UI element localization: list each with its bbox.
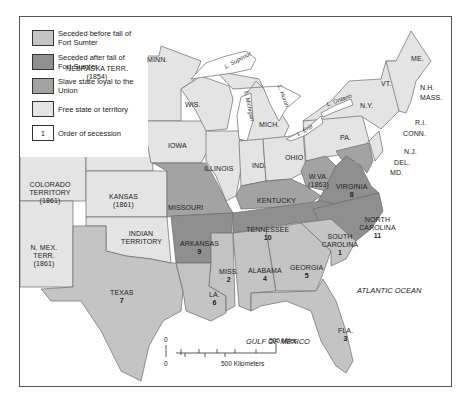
label-conn: CONN. [403,130,426,138]
label-kentucky: KENTUCKY [257,197,296,205]
label-wva: W.VA. (1863) [308,173,329,189]
label-minn: MINN. [147,56,167,64]
label-scarolina: SOUTH CAROLINA 1 [320,233,360,257]
legend-label: Free state or territory [58,105,138,114]
legend-swatch [32,30,54,46]
label-tennessee: TENNESSEE 10 [246,226,289,242]
legend-item-free: Free state or territory [32,101,138,117]
map-frame: Seceded before fall of Fort Sumter Seced… [19,16,452,387]
label-wis: WIS. [185,101,201,109]
label-atlantic-ocean: ATLANTIC OCEAN [357,286,421,295]
label-ind: IND. [252,162,266,170]
label-vt: VT. [381,80,391,88]
label-miss: MISS. 2 [219,268,239,284]
label-ri: R.I. [415,119,426,127]
label-alabama: ALABAMA 4 [248,267,282,283]
legend-label: Order of secession [58,129,138,138]
label-ohio: OHIO [285,154,303,162]
label-georgia: GEORGIA 5 [290,264,323,280]
scale-bar: 0 0 500 Miles 500 Kilometers [161,335,301,375]
label-nmex: N. MEX. TERR. (1861) [24,244,64,268]
legend-swatch [32,54,54,70]
label-mich: MICH. [259,121,279,129]
label-missouri: MISSOURI [168,204,203,212]
label-me: ME. [411,55,424,63]
label-arkansas: ARKANSAS 9 [180,240,219,256]
scale-zero-km: 0 [164,360,168,367]
label-kansas: KANSAS (1861) [109,193,138,209]
label-fla: FLA. 3 [338,327,353,343]
label-indian: INDIAN TERRITORY [121,230,161,246]
label-ny: N.Y. [360,102,373,110]
label-del: DEL. [394,159,410,167]
label-virginia: VIRGINIA 8 [336,183,368,199]
legend: Seceded before fall of Fort Sumter Seced… [20,17,148,157]
legend-item-seceded-before: Seceded before fall of Fort Sumter [32,29,138,47]
legend-swatch [32,78,54,94]
label-ncarolina: NORTH CAROLINA 11 [355,216,400,240]
label-iowa: IOWA [168,142,187,150]
label-colorado: COLORADO TERRITORY (1861) [20,181,80,205]
label-nj: N.J. [404,148,417,156]
legend-label: Seceded before fall of Fort Sumter [58,29,138,47]
label-mass: MASS. [420,94,442,102]
label-pa: PA. [340,134,351,142]
scale-miles-label: 500 Miles [269,337,297,344]
label-nebraska: NEBRASKA TERR. (1854) [66,65,128,81]
label-nh: N.H. [420,84,434,92]
legend-item-order: 1 Order of secession [32,125,138,141]
label-la: LA. 6 [209,291,220,307]
scale-zero-miles: 0 [164,336,168,343]
label-illinois: ILLINOIS [204,165,234,173]
legend-swatch [32,101,54,117]
legend-swatch: 1 [32,125,54,141]
label-texas: TEXAS 7 [110,289,133,305]
label-md: MD. [390,169,403,177]
scale-km-label: 500 Kilometers [221,360,264,367]
